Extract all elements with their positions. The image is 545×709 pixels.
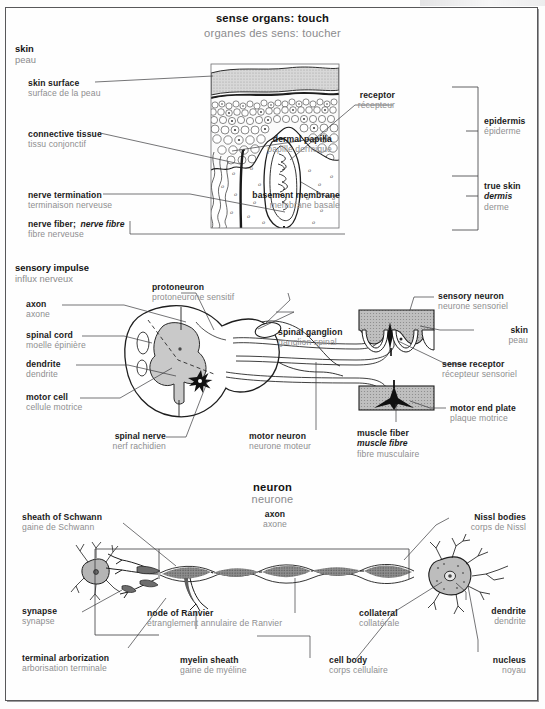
label-sensory-neuron-fr: neurone sensoriel bbox=[438, 301, 508, 311]
label-motor-end-plate-en: motor end plate bbox=[450, 403, 516, 413]
label-sense-receptor-fr: récepteur sensoriel bbox=[442, 369, 517, 379]
diagram-page: sense organs: touch organes des sens: to… bbox=[0, 0, 545, 709]
label-receptor: receptor récepteur bbox=[290, 90, 395, 111]
label-cell-body: cell body corps cellulaire bbox=[329, 655, 388, 676]
svg-text:o: o bbox=[318, 181, 321, 187]
svg-text:o: o bbox=[330, 173, 333, 179]
label-basement-membrane-fr: membrane basale bbox=[234, 200, 340, 210]
neuron-art bbox=[71, 518, 508, 659]
label-node-of-ranvier-fr: étranglement annulaire de Ranvier bbox=[147, 618, 282, 628]
label-sheath-of-schwann-fr: gaine de Schwann bbox=[22, 522, 102, 532]
label-sheath-of-schwann: sheath of Schwann gaine de Schwann bbox=[22, 512, 102, 533]
label-nissl-bodies-en: Nissl bodies bbox=[428, 512, 526, 522]
label-motor-cell-fr: cellule motrice bbox=[26, 402, 82, 412]
label-nucleus: nucleus noyau bbox=[446, 655, 526, 676]
label-cell-body-fr: corps cellulaire bbox=[329, 665, 388, 675]
label-dendrite-cord-fr: dendrite bbox=[26, 369, 61, 379]
label-nerve-fiber-en: nerve fiber; bbox=[28, 219, 76, 229]
label-spinal-cord-en: spinal cord bbox=[26, 330, 86, 340]
label-synapse-fr: synapse bbox=[22, 616, 57, 626]
svg-text:o: o bbox=[247, 213, 250, 219]
label-dermal-papilla-en: dermal papilla bbox=[236, 134, 332, 144]
label-axon-neuron: axon axone bbox=[215, 509, 335, 530]
label-axon-neuron-en: axon bbox=[215, 509, 335, 519]
label-axon-cord-en: axon bbox=[26, 299, 50, 309]
label-skin-patch-en: skin bbox=[440, 325, 528, 335]
svg-text:o: o bbox=[230, 209, 233, 215]
label-sheath-of-schwann-en: sheath of Schwann bbox=[22, 512, 102, 522]
label-spinal-nerve-en: spinal nerve bbox=[66, 431, 166, 441]
label-terminal-arborization: terminal arborization arborisation termi… bbox=[22, 653, 109, 674]
label-muscle-fibre-en-italic: muscle fibre bbox=[357, 438, 419, 448]
label-terminal-arborization-fr: arborisation terminale bbox=[22, 663, 109, 673]
label-spinal-nerve-fr: nerf rachidien bbox=[66, 441, 166, 451]
label-muscle-fiber-en: muscle fiber bbox=[357, 428, 419, 438]
svg-text:o: o bbox=[312, 219, 315, 225]
label-nerve-termination: nerve termination terminaison nerveuse bbox=[28, 190, 112, 211]
label-nissl-bodies-fr: corps de Nissl bbox=[428, 522, 526, 532]
label-motor-end-plate: motor end plate plaque motrice bbox=[450, 403, 516, 424]
label-collateral: collateral collatérale bbox=[359, 608, 399, 629]
label-skin-surface: skin surface surface de la peau bbox=[28, 78, 101, 99]
label-dermal-papilla: dermal papilla papille dermique bbox=[236, 134, 332, 155]
label-dendrite-cord-en: dendrite bbox=[26, 359, 61, 369]
label-axon-neuron-fr: axone bbox=[215, 519, 335, 529]
bracket-label-epidermis-fr: épiderme bbox=[484, 126, 526, 136]
label-dendrite-neuron-fr: dendrite bbox=[446, 616, 526, 626]
label-cell-body-en: cell body bbox=[329, 655, 388, 665]
label-motor-neuron-en: motor neuron bbox=[249, 431, 311, 441]
label-protoneuron-fr: protoneurone sensitif bbox=[152, 292, 234, 302]
label-spinal-cord: spinal cord moelle épinière bbox=[26, 330, 86, 351]
label-sensory-neuron: sensory neuron neurone sensoriel bbox=[438, 291, 508, 312]
label-synapse-en: synapse bbox=[22, 606, 57, 616]
label-connective-tissue: connective tissue tissu conjonctif bbox=[28, 129, 102, 150]
label-spinal-ganglion-en: spinal ganglion bbox=[278, 327, 343, 337]
svg-text:o: o bbox=[221, 183, 224, 189]
label-receptor-en: receptor bbox=[290, 90, 395, 100]
svg-text:o: o bbox=[232, 170, 235, 176]
bracket-label-dermis-en-italic: dermis bbox=[484, 191, 521, 201]
svg-text:o: o bbox=[308, 167, 311, 173]
label-nerve-termination-en: nerve termination bbox=[28, 190, 112, 200]
label-axon-cord: axon axone bbox=[26, 299, 50, 320]
label-nerve-fiber: nerve fiber; nerve fibre fibre nerveuse bbox=[28, 217, 124, 240]
label-nerve-fiber-fr: fibre nerveuse bbox=[28, 229, 124, 239]
svg-text:o: o bbox=[262, 219, 265, 225]
label-nucleus-en: nucleus bbox=[446, 655, 526, 665]
label-skin-patch: skin peau bbox=[440, 325, 528, 346]
label-sensory-neuron-en: sensory neuron bbox=[438, 291, 508, 301]
label-myelin-sheath-en: myelin sheath bbox=[180, 655, 247, 665]
label-axon-cord-fr: axone bbox=[26, 309, 50, 319]
label-terminal-arborization-en: terminal arborization bbox=[22, 653, 109, 663]
label-myelin-sheath-fr: gaine de myéline bbox=[180, 665, 247, 675]
label-synapse: synapse synapse bbox=[22, 606, 57, 627]
label-sense-receptor: sense receptor récepteur sensoriel bbox=[442, 359, 517, 380]
label-muscle-fiber: muscle fiber muscle fibre fibre musculai… bbox=[357, 428, 419, 459]
label-spinal-ganglion-fr: ganglion spinal bbox=[278, 337, 343, 347]
bracket-label-derme-fr: derme bbox=[484, 202, 521, 212]
label-node-of-ranvier-en: node of Ranvier bbox=[147, 608, 282, 618]
label-motor-neuron-fr: neurone moteur bbox=[249, 441, 311, 451]
label-muscle-fiber-fr: fibre musculaire bbox=[357, 449, 419, 459]
label-spinal-cord-fr: moelle épinière bbox=[26, 340, 86, 350]
svg-text:o: o bbox=[258, 181, 261, 187]
label-dendrite-neuron: dendrite dendrite bbox=[446, 606, 526, 627]
label-dendrite-cord: dendrite dendrite bbox=[26, 359, 61, 380]
label-nissl-bodies: Nissl bodies corps de Nissl bbox=[428, 512, 526, 533]
label-spinal-nerve: spinal nerve nerf rachidien bbox=[66, 431, 166, 452]
label-basement-membrane: basement membrane membrane basale bbox=[234, 190, 340, 211]
label-motor-cell: motor cell cellule motrice bbox=[26, 392, 82, 413]
label-motor-neuron: motor neuron neurone moteur bbox=[249, 431, 311, 452]
label-node-of-ranvier: node of Ranvier étranglement annulaire d… bbox=[147, 608, 282, 629]
label-nucleus-fr: noyau bbox=[446, 665, 526, 675]
label-collateral-fr: collatérale bbox=[359, 618, 399, 628]
bracket-label-dermis: true skin dermis derme bbox=[484, 181, 521, 212]
label-protoneuron-en: protoneuron bbox=[152, 282, 234, 292]
label-myelin-sheath: myelin sheath gaine de myéline bbox=[180, 655, 247, 676]
label-dermal-papilla-fr: papille dermique bbox=[236, 144, 332, 154]
label-connective-tissue-en: connective tissue bbox=[28, 129, 102, 139]
label-protoneuron: protoneuron protoneurone sensitif bbox=[152, 282, 234, 303]
label-nerve-fiber-en-line: nerve fiber; nerve fibre bbox=[28, 217, 124, 229]
label-connective-tissue-fr: tissu conjonctif bbox=[28, 139, 102, 149]
label-motor-cell-en: motor cell bbox=[26, 392, 82, 402]
